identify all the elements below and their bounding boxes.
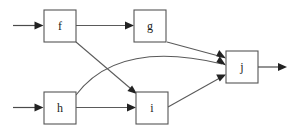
edge-f-to-i bbox=[76, 42, 137, 94]
edge-i-to-j-line bbox=[168, 77, 223, 108]
node-g[interactable]: g bbox=[134, 10, 166, 42]
node-f[interactable]: f bbox=[44, 10, 76, 42]
graph-svg: f g j h i bbox=[0, 0, 299, 134]
edge-output-from-j bbox=[258, 63, 287, 71]
node-f-label: f bbox=[58, 19, 62, 33]
edge-f-to-g bbox=[76, 22, 134, 30]
node-i[interactable]: i bbox=[136, 92, 168, 124]
edge-i-to-j bbox=[168, 75, 226, 108]
edge-h-to-i-arrowhead bbox=[127, 104, 136, 112]
node-h-label: h bbox=[57, 101, 63, 115]
edge-g-to-j-line bbox=[167, 42, 223, 57]
diagram-canvas: f g j h i bbox=[0, 0, 299, 134]
edge-g-to-j bbox=[167, 42, 226, 59]
edge-h-to-j bbox=[76, 56, 226, 95]
edge-input-to-f-arrowhead bbox=[35, 22, 44, 30]
edge-f-to-i-line bbox=[76, 42, 134, 91]
edge-input-to-h-arrowhead bbox=[35, 104, 44, 112]
edge-f-to-g-arrowhead bbox=[125, 22, 134, 30]
edge-h-to-i bbox=[76, 104, 136, 112]
edge-i-to-j-arrowhead bbox=[216, 75, 226, 82]
edge-output-from-j-arrowhead bbox=[278, 63, 287, 71]
node-j[interactable]: j bbox=[226, 51, 258, 83]
node-j-label: j bbox=[239, 60, 243, 74]
edge-input-to-h bbox=[13, 104, 44, 112]
edge-input-to-f bbox=[13, 22, 44, 30]
edge-g-to-j-arrowhead bbox=[216, 50, 226, 59]
node-h[interactable]: h bbox=[44, 92, 76, 124]
node-g-label: g bbox=[147, 19, 153, 33]
